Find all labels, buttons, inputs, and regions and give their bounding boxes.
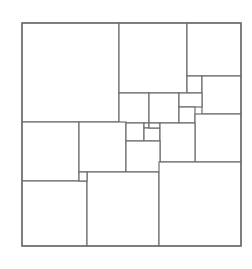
tile-sq-12 — [79, 122, 126, 172]
tile-sq-7 — [149, 93, 179, 123]
tile-sq-19 — [22, 181, 87, 246]
tile-sq-15 — [144, 128, 160, 141]
tile-sq-8 — [179, 93, 202, 107]
tile-sq-21 — [159, 162, 241, 246]
tile-sq-11 — [22, 122, 79, 181]
tile-sq-14 — [144, 123, 149, 128]
tiling-svg — [0, 0, 252, 269]
tile-sq-10 — [195, 114, 241, 162]
tile-sq-4 — [187, 76, 202, 93]
tile-sq-5 — [202, 76, 241, 114]
tile-sq-22 — [79, 172, 87, 181]
squared-square-diagram — [0, 0, 252, 269]
tile-sq-17 — [160, 123, 195, 162]
tile-sq-1 — [22, 23, 119, 122]
tile-sq-9 — [179, 107, 195, 123]
tile-sq-18 — [126, 141, 160, 172]
tile-sq-2 — [119, 23, 187, 93]
tile-sq-3 — [187, 23, 241, 76]
tile-sq-6 — [119, 93, 149, 123]
tile-sq-13 — [126, 123, 144, 141]
tile-sq-20 — [87, 172, 159, 246]
tile-sq-16 — [149, 123, 160, 128]
